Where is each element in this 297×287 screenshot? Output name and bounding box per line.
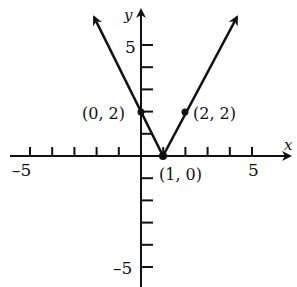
x-tick-label-neg5: –5 — [12, 160, 31, 180]
y-tick-label-5: 5 — [125, 37, 136, 57]
labeled-points: (0, 2) (2, 2) (1, 0) — [82, 104, 236, 184]
y-tick-label-neg5: –5 — [113, 258, 132, 278]
function-graph — [94, 17, 237, 156]
point-0-2 — [138, 109, 145, 116]
absolute-value-graph: x y –5 5 5 –5 (0, 2) (2, 2) (1, 0) — [0, 0, 297, 287]
right-branch — [163, 17, 237, 156]
label-point-0-2: (0, 2) — [82, 104, 125, 123]
point-1-0 — [159, 152, 167, 160]
x-tick-label-5: 5 — [248, 160, 259, 180]
label-point-2-2: (2, 2) — [193, 104, 236, 123]
x-axis-label: x — [284, 136, 293, 154]
label-point-1-0: (1, 0) — [159, 165, 202, 184]
point-2-2 — [182, 109, 189, 116]
y-axis-label: y — [123, 6, 133, 24]
